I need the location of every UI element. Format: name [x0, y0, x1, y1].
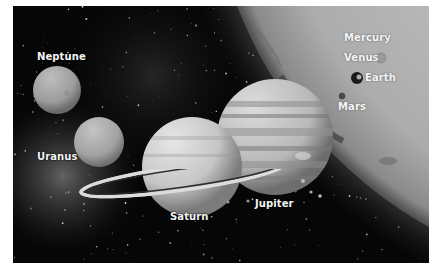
star [112, 233, 113, 234]
star [68, 191, 69, 192]
solar-system-image: Neptune Uranus Saturn Jupiter Mercury Ve… [13, 6, 429, 263]
star [14, 154, 16, 156]
star [181, 63, 182, 64]
star [318, 245, 319, 246]
star [251, 198, 253, 200]
star [187, 35, 188, 36]
star [90, 84, 91, 85]
star [34, 100, 35, 101]
star [83, 210, 84, 211]
star [150, 13, 151, 14]
star [74, 49, 75, 50]
star [305, 218, 307, 220]
star [83, 203, 85, 205]
star [57, 133, 58, 134]
star [50, 196, 52, 198]
star [202, 229, 203, 230]
star [154, 32, 156, 34]
uranus-label: Uranus [37, 151, 78, 162]
star [225, 73, 227, 75]
star [125, 202, 127, 204]
star [32, 111, 34, 113]
star [205, 46, 206, 47]
moon [247, 200, 250, 203]
star [42, 63, 43, 64]
star [68, 8, 70, 10]
star [203, 254, 205, 256]
star [174, 70, 175, 71]
star [36, 71, 37, 72]
star [162, 70, 163, 71]
star [128, 156, 129, 157]
star [226, 238, 228, 240]
star [200, 227, 201, 228]
star [18, 69, 19, 70]
star [89, 175, 90, 176]
neptune-spot [64, 90, 70, 96]
star [158, 231, 160, 233]
moon [309, 190, 312, 193]
earth-label: Earth [365, 72, 396, 83]
star [135, 262, 136, 263]
star [177, 230, 179, 232]
star [157, 10, 158, 11]
star [206, 70, 208, 72]
star [69, 63, 70, 64]
star [287, 229, 288, 230]
star [24, 150, 26, 152]
star [211, 257, 213, 259]
star [239, 260, 240, 261]
mercury-label: Mercury [344, 32, 391, 43]
star [126, 52, 128, 54]
star [381, 249, 382, 250]
star [203, 244, 205, 246]
star [90, 225, 91, 226]
star [47, 43, 48, 44]
star [64, 209, 66, 211]
jupiter-label: Jupiter [255, 198, 294, 209]
neptune-label: Neptune [37, 51, 86, 62]
star [62, 222, 64, 224]
star [149, 137, 150, 138]
star [127, 244, 129, 246]
star [126, 212, 128, 214]
star [195, 24, 197, 26]
star [115, 200, 116, 201]
star [113, 249, 114, 250]
moon [318, 194, 322, 198]
star [192, 23, 193, 24]
star [65, 192, 67, 194]
star [125, 252, 126, 253]
uranus-planet [74, 117, 124, 167]
star [136, 59, 137, 60]
sun-spot [379, 157, 397, 165]
star [139, 239, 140, 240]
star [236, 222, 237, 223]
star [17, 93, 19, 95]
star [135, 37, 136, 38]
star [232, 248, 233, 249]
star [280, 247, 281, 248]
star [42, 47, 43, 48]
star [137, 104, 139, 106]
star [178, 75, 179, 76]
saturn-label: Saturn [170, 211, 209, 222]
star [127, 96, 128, 97]
star [128, 17, 130, 19]
moon [227, 201, 230, 204]
star [362, 251, 363, 252]
star [303, 202, 304, 203]
star [169, 242, 171, 244]
mars-label: Mars [338, 101, 366, 112]
star [110, 69, 111, 70]
mars-planet [339, 93, 345, 99]
star [124, 252, 125, 253]
star [236, 219, 238, 221]
star [107, 248, 108, 249]
star [21, 93, 22, 94]
star [105, 96, 106, 97]
star [195, 102, 196, 103]
star [122, 66, 124, 68]
star [216, 111, 217, 112]
star [30, 207, 32, 209]
